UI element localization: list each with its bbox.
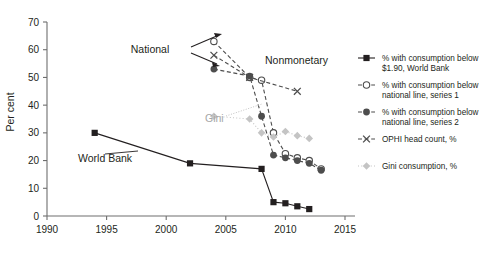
legend-item[interactable]: % with consumption below$1.90, World Ban… (358, 54, 479, 73)
data-point (318, 167, 325, 174)
annotations: National Nonmonetary Gini World Bank (78, 43, 329, 164)
data-point (282, 128, 290, 136)
data-point (282, 200, 288, 206)
y-tick-label: 30 (28, 127, 40, 138)
series-line (95, 133, 310, 209)
poverty-trends-chart: 010203040506070 199019952000200520102015… (0, 0, 500, 261)
legend-marker-icon (363, 136, 370, 143)
x-tick-label: 2015 (334, 224, 357, 235)
x-tick-label: 2005 (215, 224, 238, 235)
data-point (270, 199, 276, 205)
chart-legend: % with consumption below$1.90, World Ban… (358, 54, 479, 171)
data-point (258, 77, 264, 83)
national-arrowhead-upper (214, 33, 222, 38)
legend-marker-icon (363, 109, 370, 116)
annotation-nonmonetary: Nonmonetary (265, 54, 329, 66)
y-axis-title: Per cent (4, 92, 16, 131)
y-tick-label: 70 (28, 17, 40, 28)
national-arrowhead-lower (212, 62, 220, 67)
legend-marker-icon (363, 82, 369, 88)
x-tick-label: 2000 (155, 224, 178, 235)
data-point (92, 130, 98, 136)
y-tick-label: 10 (28, 183, 40, 194)
chart-container: 010203040506070 199019952000200520102015… (0, 0, 500, 261)
y-tick-label: 20 (28, 155, 40, 166)
y-tick-label: 60 (28, 44, 40, 55)
data-point (210, 52, 217, 59)
data-point (211, 38, 217, 44)
data-point (246, 115, 254, 123)
axes (43, 22, 355, 220)
legend-item[interactable]: Gini consumption, % (358, 162, 457, 171)
legend-label-line2: national line, series 1 (382, 91, 459, 100)
legend-label-line1: Gini consumption, % (382, 162, 457, 171)
data-point (187, 160, 193, 166)
annotation-world-bank: World Bank (78, 152, 133, 164)
data-point (306, 206, 312, 212)
data-point (270, 152, 277, 159)
legend-label-line1: % with consumption below (382, 54, 479, 63)
legend-label-line1: % with consumption below (382, 108, 479, 117)
legend-marker-icon (363, 55, 369, 61)
annotation-leaders (105, 33, 262, 154)
x-tick-label: 2010 (274, 224, 297, 235)
data-point (305, 135, 313, 143)
legend-item[interactable]: % with consumption belownational line, s… (358, 81, 479, 100)
data-point (246, 73, 253, 80)
data-point (306, 160, 313, 167)
legend-label-line2: $1.90, World Bank (382, 64, 450, 73)
data-point (258, 129, 266, 137)
annotation-gini: Gini (205, 112, 224, 124)
x-tick-label: 1990 (36, 224, 59, 235)
legend-marker-icon (363, 162, 371, 170)
data-point (258, 113, 265, 120)
legend-item[interactable]: OPHI head count, % (358, 135, 457, 144)
legend-item[interactable]: % with consumption belownational line, s… (358, 108, 479, 127)
data-point (294, 157, 301, 164)
x-tick-label: 1995 (95, 224, 118, 235)
gini-leader (226, 104, 262, 116)
y-axis-tick-labels: 010203040506070 (28, 17, 40, 222)
y-tick-label: 0 (33, 211, 39, 222)
data-point (294, 88, 301, 95)
y-tick-label: 40 (28, 100, 40, 111)
data-point (294, 132, 302, 140)
legend-label-line1: OPHI head count, % (382, 135, 457, 144)
legend-label-line1: % with consumption below (382, 81, 479, 90)
y-tick-label: 50 (28, 72, 40, 83)
data-point (258, 166, 264, 172)
series-line (214, 69, 321, 170)
data-point (282, 154, 289, 161)
data-point (294, 203, 300, 209)
annotation-national: National (131, 43, 170, 55)
legend-label-line2: national line, series 2 (382, 118, 459, 127)
x-axis-tick-labels: 199019952000200520102015 (36, 224, 357, 235)
